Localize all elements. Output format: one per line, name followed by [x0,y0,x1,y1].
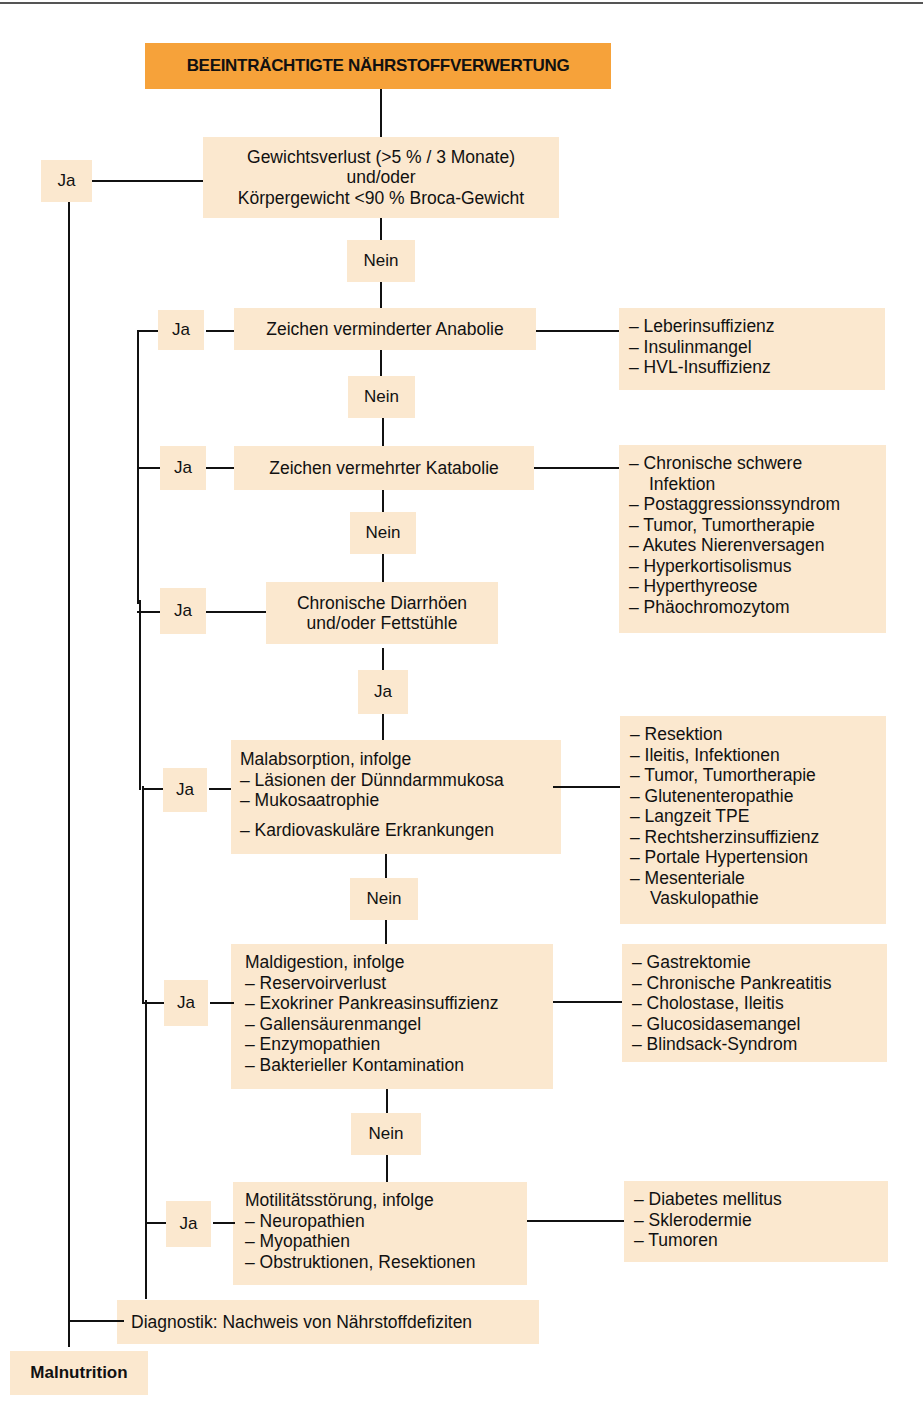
connector [380,89,382,137]
yes-collector-line [139,600,141,790]
connector [527,1220,625,1222]
node-text: – Enzymopathien [245,1034,553,1055]
cause-item: – Glucosidasemangel [632,1014,877,1035]
node-text: Malabsorption, infolge [240,749,561,770]
node-text: Körpergewicht <90 % Broca-Gewicht [238,188,524,209]
cause-item: – Diabetes mellitus [634,1189,878,1210]
cause-item: – Langzeit TPE [630,806,876,827]
connector [382,648,384,670]
connector [380,218,382,240]
node-diarrhoe: Chronische Diarrhöen und/oder Fettstühle [266,582,498,644]
node-gewichtsverlust: Gewichtsverlust (>5 % / 3 Monate) und/od… [203,137,559,218]
yes-label: Ja [164,980,208,1026]
diagram-title: BEEINTRÄCHTIGTE NÄHRSTOFFVERWERTUNG [145,43,611,89]
result-malnutrition: Malnutrition [10,1351,148,1395]
cause-item: – HVL-Insuffizienz [629,357,875,378]
cause-item: – Blindsack-Syndrom [632,1034,877,1055]
node-diagnostik: Diagnostik: Nachweis von Nährstoffdefizi… [117,1300,539,1344]
node-maldigestion: Maldigestion, infolge – Reservoirverlust… [231,944,553,1089]
node-text: – Mukosaatrophie [240,790,561,811]
connector [210,1002,234,1004]
cause-item: – Insulinmangel [629,337,875,358]
connector [380,350,382,376]
cause-item: – Mesenteriale [630,868,876,889]
node-text: Zeichen verminderter Anabolie [266,319,503,340]
cause-item: – Hyperthyreose [629,576,876,597]
connector [382,418,384,446]
connector [206,611,266,613]
connector [382,554,384,582]
connector [206,467,234,469]
node-text: – Neuropathien [245,1211,527,1232]
node-text: – Exokriner Pankreasinsuffizienz [245,993,553,1014]
node-text: und/oder [346,167,415,188]
node-text: – Kardiovaskuläre Erkrankungen [240,820,561,841]
top-rule [0,2,923,4]
no-label: Nein [347,240,415,282]
node-text: Zeichen vermehrter Katabolie [269,458,499,479]
cause-item: – Akutes Nierenversagen [629,535,876,556]
connector [137,467,160,469]
no-label: Nein [348,376,415,418]
node-text: Gewichtsverlust (>5 % / 3 Monate) [247,147,515,168]
node-motilitaet: Motilitätsstörung, infolge – Neuropathie… [233,1182,527,1285]
cause-item: – Leberinsuffizienz [629,316,875,337]
cause-item: Infektion [629,474,876,495]
causes-katabolie: – Chronische schwere Infektion – Postagg… [619,445,886,633]
node-text: Chronische Diarrhöen [297,593,467,614]
node-text: – Reservoirverlust [245,973,553,994]
connector [146,1222,166,1224]
node-text: – Obstruktionen, Resektionen [245,1252,527,1273]
causes-anabolie: – Leberinsuffizienz – Insulinmangel – HV… [619,308,885,390]
yes-label: Ja [41,160,92,202]
node-text: – Gallensäurenmangel [245,1014,553,1035]
connector [536,330,620,332]
cause-item: – Chronische schwere [629,453,876,474]
node-anabolie: Zeichen verminderter Anabolie [234,308,536,350]
cause-item: – Hyperkortisolismus [629,556,876,577]
cause-item: – Tumoren [634,1230,878,1251]
yes-label: Ja [158,310,204,350]
yes-collector-line [142,786,144,1004]
cause-item: Vaskulopathie [630,888,876,909]
cause-item: – Glutenenteropathie [630,786,876,807]
connector [385,854,387,878]
connector [209,788,231,790]
cause-item: – Cholostase, Ileitis [632,993,877,1014]
connector [68,1320,124,1322]
causes-malabsorption: – Resektion – Ileitis, Infektionen – Tum… [620,716,886,924]
cause-item: – Rechtsherzinsuffizienz [630,827,876,848]
connector [553,1001,622,1003]
yes-label: Ja [166,1201,211,1247]
cause-item: – Chronische Pankreatitis [632,973,877,994]
yes-collector-line [137,330,139,604]
causes-motilitaet: – Diabetes mellitus – Sklerodermie – Tum… [624,1181,888,1262]
connector [213,1222,235,1224]
connector [92,180,203,182]
yes-down-label: Ja [358,670,408,714]
cause-item: – Sklerodermie [634,1210,878,1231]
node-text: – Läsionen der Dünndarmmukosa [240,770,561,791]
cause-item: – Resektion [630,724,876,745]
connector [206,330,234,332]
node-text: Maldigestion, infolge [245,952,553,973]
cause-item: – Gastrektomie [632,952,877,973]
connector [386,1089,388,1113]
cause-item: – Tumor, Tumortherapie [629,515,876,536]
connector [534,467,620,469]
cause-item: – Tumor, Tumortherapie [630,765,876,786]
causes-maldigestion: – Gastrektomie – Chronische Pankreatitis… [622,944,887,1062]
no-label: Nein [351,1113,421,1155]
connector [382,490,384,512]
node-malabsorption: Malabsorption, infolge – Läsionen der Dü… [231,740,561,854]
connector [386,1155,388,1182]
node-text: – Myopathien [245,1231,527,1252]
no-label: Nein [350,878,418,920]
node-text: und/oder Fettstühle [307,613,458,634]
yes-label: Ja [160,588,206,634]
node-text: Diagnostik: Nachweis von Nährstoffdefizi… [131,1312,472,1333]
node-text: Motilitätsstörung, infolge [245,1190,527,1211]
cause-item: – Portale Hypertension [630,847,876,868]
connector [385,920,387,944]
connector [553,786,620,788]
